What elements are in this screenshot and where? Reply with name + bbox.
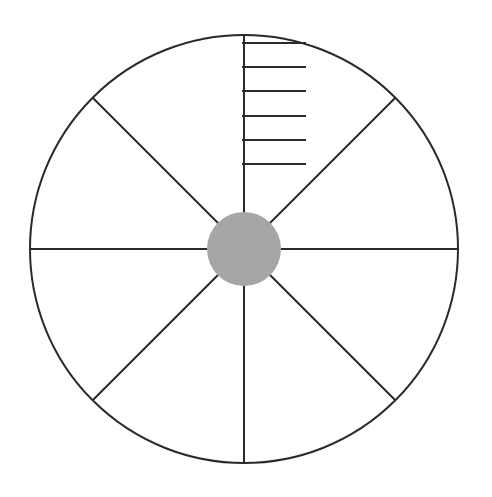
- diagram-canvas: [0, 0, 492, 497]
- center-hub: [207, 212, 281, 286]
- scale-marks-group: [242, 43, 306, 164]
- segmented-wheel-diagram: [0, 0, 492, 497]
